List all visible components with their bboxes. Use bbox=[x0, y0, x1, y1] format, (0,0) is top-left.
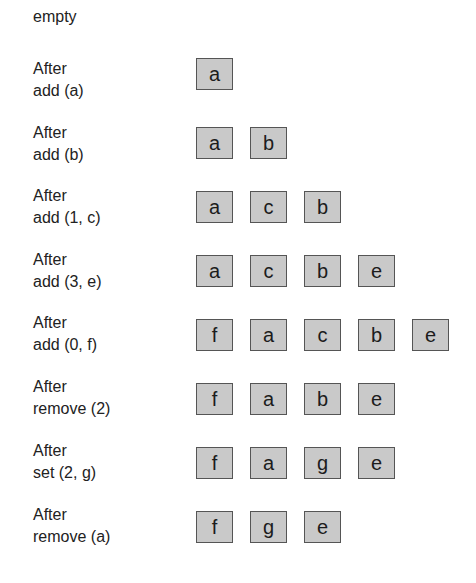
list-element-box: f bbox=[196, 447, 233, 479]
list-element-box: e bbox=[358, 447, 395, 479]
list-element-box: b bbox=[304, 255, 341, 287]
list-element-box: e bbox=[304, 511, 341, 543]
list-element-box: g bbox=[304, 447, 341, 479]
operation-row: After remove (a)fge bbox=[0, 504, 476, 564]
operation-row: After add (3, e)acbe bbox=[0, 249, 476, 309]
operation-label: After add (1, c) bbox=[33, 185, 101, 229]
operation-row: After add (0, f)facbe bbox=[0, 312, 476, 372]
operation-label: empty bbox=[33, 6, 77, 28]
operation-label: After set (2, g) bbox=[33, 440, 96, 484]
operation-row: After set (2, g)fage bbox=[0, 440, 476, 500]
list-element-box: b bbox=[304, 383, 341, 415]
list-element-box: g bbox=[250, 511, 287, 543]
list-element-box: b bbox=[358, 319, 395, 351]
list-element-box: f bbox=[196, 511, 233, 543]
operation-label: After remove (a) bbox=[33, 504, 110, 548]
operation-row: After add (b)ab bbox=[0, 122, 476, 182]
list-element-box: b bbox=[250, 127, 287, 159]
operation-row: After add (1, c)acb bbox=[0, 185, 476, 245]
list-element-box: c bbox=[250, 191, 287, 223]
list-element-box: c bbox=[250, 255, 287, 287]
operation-row: After add (a)a bbox=[0, 58, 476, 118]
operation-row: empty bbox=[0, 6, 476, 66]
list-element-box: a bbox=[196, 127, 233, 159]
operation-label: After add (0, f) bbox=[33, 312, 97, 356]
list-element-box: a bbox=[250, 319, 287, 351]
operation-label: After add (b) bbox=[33, 122, 84, 166]
operation-label: After remove (2) bbox=[33, 376, 110, 420]
list-element-box: a bbox=[196, 191, 233, 223]
list-element-box: a bbox=[196, 255, 233, 287]
list-element-box: f bbox=[196, 319, 233, 351]
operation-label: After add (a) bbox=[33, 58, 84, 102]
list-element-box: e bbox=[358, 255, 395, 287]
list-element-box: a bbox=[250, 447, 287, 479]
operation-row: After remove (2)fabe bbox=[0, 376, 476, 436]
list-element-box: b bbox=[304, 191, 341, 223]
list-element-box: e bbox=[412, 319, 449, 351]
list-element-box: a bbox=[250, 383, 287, 415]
list-element-box: c bbox=[304, 319, 341, 351]
list-element-box: e bbox=[358, 383, 395, 415]
list-element-box: a bbox=[196, 58, 233, 90]
operation-label: After add (3, e) bbox=[33, 249, 101, 293]
list-element-box: f bbox=[196, 383, 233, 415]
